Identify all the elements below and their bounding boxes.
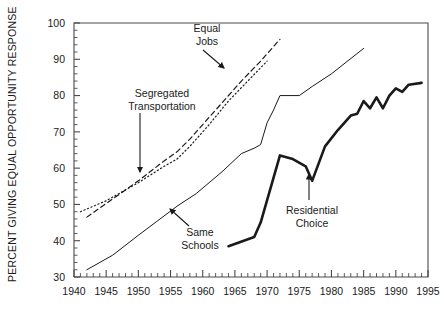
x-tick-label: 1940 — [62, 285, 86, 297]
y-tick-label: 30 — [53, 271, 65, 283]
x-tick-label: 1965 — [223, 285, 247, 297]
x-tick-label: 1995 — [416, 285, 440, 297]
chart-canvas: 30405060708090100 1940194519501955196019… — [0, 0, 444, 312]
figure-background — [0, 0, 444, 312]
x-tick-label: 1990 — [384, 285, 408, 297]
x-tick-label: 1970 — [255, 285, 279, 297]
y-tick-label: 60 — [53, 162, 65, 174]
chart-figure: 30405060708090100 1940194519501955196019… — [0, 0, 444, 312]
x-tick-label: 1945 — [95, 285, 119, 297]
x-tick-label: 1975 — [288, 285, 312, 297]
annotation-label-equal-jobs: Jobs — [196, 35, 218, 47]
y-tick-label: 40 — [53, 235, 65, 247]
x-tick-label: 1980 — [320, 285, 344, 297]
x-tick-label: 1960 — [191, 285, 215, 297]
y-tick-label: 50 — [53, 198, 65, 210]
x-tick-label: 1985 — [352, 285, 376, 297]
y-tick-label: 90 — [53, 53, 65, 65]
y-tick-label: 80 — [53, 89, 65, 101]
annotation-label-same-schools: Schools — [181, 239, 218, 251]
annotation-label-residential-choice: Residential — [286, 204, 338, 216]
y-tick-label: 70 — [53, 126, 65, 138]
annotation-label-residential-choice: Choice — [296, 217, 329, 229]
x-tick-label: 1950 — [127, 285, 151, 297]
annotation-label-segregated-transportation: Segregated — [135, 87, 189, 99]
y-tick-label: 100 — [47, 17, 65, 29]
annotation-label-equal-jobs: Equal — [194, 22, 221, 34]
y-axis-title: PERCENT GIVING EQUAL OPPORTUNITY RESPONS… — [6, 6, 18, 282]
annotation-label-segregated-transportation: Transportation — [128, 100, 195, 112]
x-tick-label: 1955 — [159, 285, 183, 297]
annotation-label-same-schools: Same — [186, 226, 214, 238]
